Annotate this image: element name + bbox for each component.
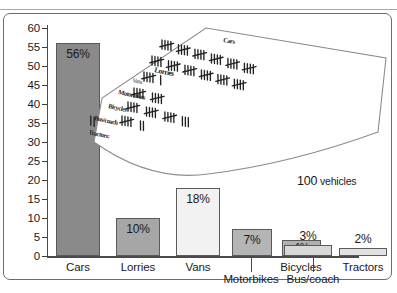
y-tick-mark	[42, 47, 47, 48]
y-tick-mark	[42, 218, 47, 219]
y-tick-mark	[42, 180, 47, 181]
x-label-tractors: Tractors	[336, 261, 390, 273]
bar-value-lorries: 10%	[126, 222, 149, 236]
leader-buscoach	[313, 258, 314, 272]
y-tick-mark	[42, 28, 47, 29]
y-tick-mark	[42, 104, 47, 105]
x-label-lorries: Lorries	[113, 261, 163, 273]
y-tick-mark	[42, 123, 47, 124]
tally-label-vans: Vans	[132, 77, 144, 85]
tally-sheet-outline	[94, 28, 386, 175]
vehicles-annotation: 100 vehicles	[297, 174, 356, 188]
bar-chart: 0 5 10 15 20 25 30 35 40 45 50 55 60 56%…	[0, 0, 397, 293]
y-tick-mark	[42, 85, 47, 86]
bar-value-cars: 56%	[66, 47, 89, 61]
tally-label-lorries: Lorries	[154, 65, 176, 78]
x-axis-line	[47, 256, 359, 258]
tally-label-cars: Cars	[223, 36, 236, 45]
tally-label-bicycles: Bicycles	[108, 102, 128, 113]
tally-label-motorbikes: Motorbikes	[118, 88, 147, 101]
bar-lorries: 10%	[116, 218, 160, 256]
tally-sheet-illustration: Cars Lorries Vans Motorbikes Bicycles Bu…	[90, 14, 390, 199]
y-tick-30: 30	[14, 137, 40, 148]
bar-value-tractors: 2%	[355, 232, 372, 246]
y-tick-60: 60	[14, 23, 40, 34]
tally-row-labels: Cars Lorries Vans Motorbikes Bicycles Bu…	[90, 36, 236, 139]
bar-value-vans: 18%	[186, 192, 209, 206]
y-tick-45: 45	[14, 80, 40, 91]
y-tick-mark	[42, 161, 47, 162]
y-tick-35: 35	[14, 118, 40, 129]
y-tick-mark	[42, 237, 47, 238]
bar-cars: 56%	[56, 43, 100, 256]
y-tick-10: 10	[14, 213, 40, 224]
vehicle-count: 100	[297, 174, 317, 188]
bar-motorbikes: 7%	[232, 229, 272, 256]
x-label-vans: Vans	[176, 261, 220, 273]
tally-marks-group	[90, 40, 258, 152]
y-tick-40: 40	[14, 99, 40, 110]
y-tick-20: 20	[14, 175, 40, 186]
y-tick-0: 0	[14, 251, 40, 262]
y-tick-50: 50	[14, 61, 40, 72]
y-tick-5: 5	[14, 232, 40, 243]
bar-tractors: 2%	[339, 248, 387, 256]
y-tick-55: 55	[14, 42, 40, 53]
y-tick-25: 25	[14, 156, 40, 167]
bar-value-buscoach: 3%	[300, 229, 317, 243]
y-axis-line	[47, 25, 48, 257]
x-label-buscoach: Bus/coach	[277, 273, 349, 285]
y-tick-15: 15	[14, 194, 40, 205]
x-label-bicycles: Bicycles	[272, 261, 330, 273]
bar-buscoach-visible: 3%	[284, 245, 332, 256]
x-label-cars: Cars	[56, 261, 100, 273]
y-tick-mark	[42, 142, 47, 143]
y-tick-mark	[42, 256, 47, 257]
y-tick-mark	[42, 66, 47, 67]
y-tick-mark	[42, 199, 47, 200]
bar-vans: 18%	[176, 188, 220, 256]
bar-value-motorbikes: 7%	[244, 233, 261, 247]
vehicle-word: vehicles	[320, 175, 356, 187]
leader-motorbikes	[251, 258, 252, 272]
